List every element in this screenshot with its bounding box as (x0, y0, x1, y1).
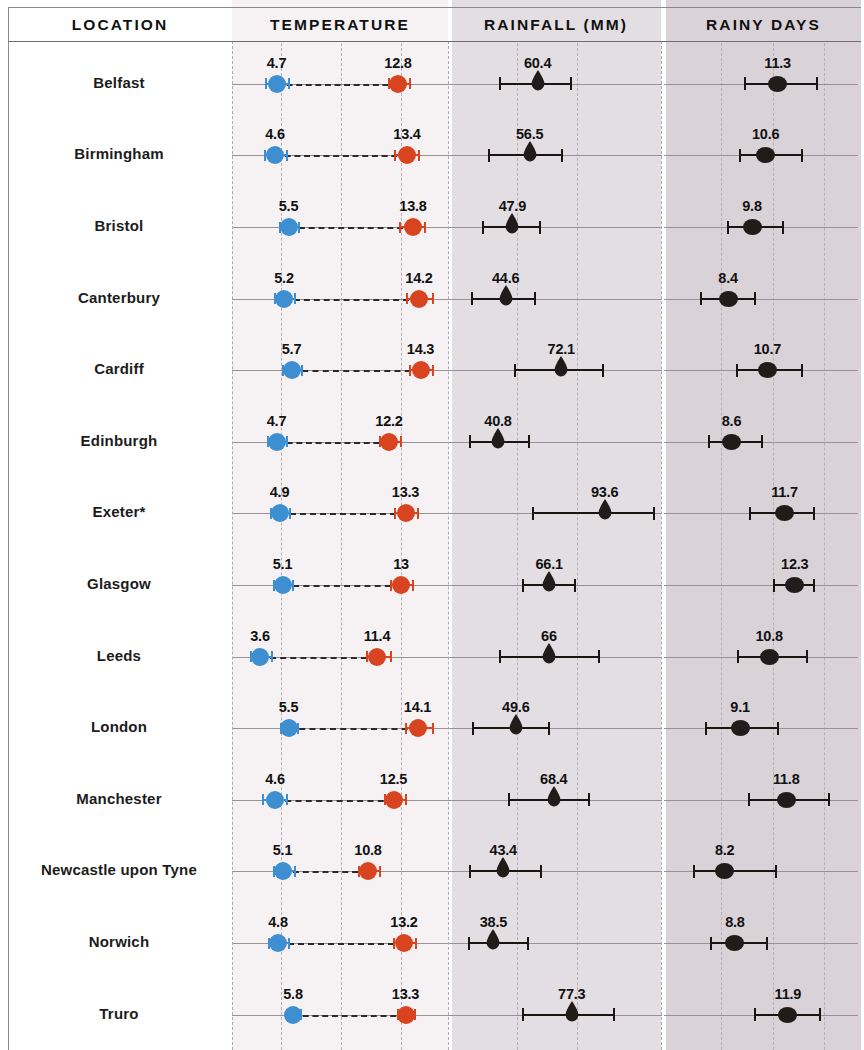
min-temp-marker[interactable] (251, 648, 269, 666)
rainfall-marker[interactable] (553, 356, 569, 377)
rainy-days-cap-low (700, 292, 702, 305)
column-header-temperature[interactable]: TEMPERATURE (234, 8, 446, 41)
rainy-days-cap-low (727, 221, 729, 234)
rainfall-value-label: 60.4 (524, 55, 551, 71)
rainfall-value-label: 43.4 (490, 842, 517, 858)
max-temp-cap-high (418, 150, 420, 161)
row-location-label: Cardiff (8, 360, 230, 377)
rainy-days-cap-high (813, 579, 815, 592)
max-temp-marker[interactable] (380, 433, 398, 451)
rainy-days-marker[interactable] (743, 219, 762, 235)
rainy-days-value-label: 11.3 (764, 55, 791, 71)
max-temp-marker[interactable] (395, 934, 413, 952)
rainy-days-value-label: 8.2 (715, 842, 735, 858)
max-temp-marker[interactable] (397, 504, 415, 522)
max-temp-marker[interactable] (404, 218, 422, 236)
max-temp-cap-high (400, 436, 402, 447)
max-temp-marker[interactable] (368, 648, 386, 666)
rainfall-marker[interactable] (522, 141, 538, 162)
rainfall-marker[interactable] (508, 714, 524, 735)
rainfall-cap-low (482, 221, 484, 234)
column-header-rainfall[interactable]: RAINFALL (MM) (452, 8, 660, 41)
min-temp-marker[interactable] (275, 290, 293, 308)
rainfall-marker[interactable] (541, 571, 557, 592)
rainfall-cap-high (602, 364, 604, 377)
rainy-days-cap-low (739, 149, 741, 162)
rainfall-whisker (533, 512, 654, 514)
min-temp-marker[interactable] (280, 719, 298, 737)
max-temp-cap-low (405, 723, 407, 734)
min-temp-value-label: 4.7 (267, 55, 287, 71)
max-temp-value-label: 14.2 (405, 270, 432, 286)
max-temp-cap-low (394, 150, 396, 161)
rainfall-marker[interactable] (485, 929, 501, 950)
rainfall-marker[interactable] (498, 285, 514, 306)
rainfall-marker[interactable] (564, 1001, 580, 1022)
max-temp-marker[interactable] (397, 1006, 415, 1024)
row-location-label: Bristol (8, 217, 230, 234)
max-temp-marker[interactable] (410, 290, 428, 308)
rainy-days-value-label: 12.3 (781, 556, 808, 572)
max-temp-marker[interactable] (385, 791, 403, 809)
min-temp-marker[interactable] (280, 218, 298, 236)
max-temp-marker[interactable] (392, 576, 410, 594)
rainfall-value-label: 38.5 (480, 914, 507, 930)
rainy-days-marker[interactable] (768, 76, 787, 92)
min-temp-cap-high (286, 794, 288, 805)
min-temp-marker[interactable] (283, 361, 301, 379)
rainfall-cap-high (574, 579, 576, 592)
rainy-days-value-label: 8.8 (725, 914, 745, 930)
gridline-rainy_days (721, 43, 722, 1050)
min-temp-marker[interactable] (268, 433, 286, 451)
rainfall-marker[interactable] (597, 499, 613, 520)
rainfall-value-label: 40.8 (484, 413, 511, 429)
min-temp-marker[interactable] (284, 1006, 302, 1024)
min-temp-cap-high (286, 436, 288, 447)
header-bottom-rule (8, 41, 864, 42)
column-header-rainy-days-label: RAINY DAYS (706, 16, 821, 34)
climate-table-chart: Belfast4.712.860.411.3Birmingham4.613.45… (0, 0, 864, 1050)
rainy-days-marker[interactable] (731, 720, 750, 736)
max-temp-marker[interactable] (409, 719, 427, 737)
rainy-days-marker[interactable] (778, 1007, 797, 1023)
rainy-days-cap-high (782, 221, 784, 234)
min-temp-marker[interactable] (269, 934, 287, 952)
column-header-location[interactable]: LOCATION (9, 8, 231, 41)
rainy-days-marker[interactable] (719, 291, 738, 307)
rainfall-cap-high (613, 1008, 615, 1021)
min-temp-marker[interactable] (274, 862, 292, 880)
rainfall-marker[interactable] (495, 857, 511, 878)
min-temp-marker[interactable] (271, 504, 289, 522)
temperature-range-connector (260, 657, 377, 659)
rainfall-marker[interactable] (530, 70, 546, 91)
max-temp-marker[interactable] (389, 75, 407, 93)
max-temp-value-label: 12.2 (375, 413, 402, 429)
min-temp-marker[interactable] (266, 791, 284, 809)
max-temp-value-label: 13.3 (392, 484, 419, 500)
rainy-days-value-label: 10.8 (755, 628, 782, 644)
rainfall-cap-low (514, 364, 516, 377)
rainy-days-marker[interactable] (760, 649, 779, 665)
min-temp-marker[interactable] (274, 576, 292, 594)
panel-separator-1 (232, 41, 233, 1050)
rainfall-marker[interactable] (490, 428, 506, 449)
max-temp-marker[interactable] (412, 361, 430, 379)
max-temp-cap-low (406, 293, 408, 304)
rainy-days-marker[interactable] (758, 362, 777, 378)
rainy-days-cap-low (754, 1008, 756, 1021)
column-header-rainfall-label: RAINFALL (MM) (484, 16, 628, 34)
gridline-rainfall (517, 43, 518, 1050)
max-temp-value-label: 13.2 (390, 914, 417, 930)
rainfall-value-label: 77.3 (558, 986, 585, 1002)
rainfall-marker[interactable] (504, 213, 520, 234)
min-temp-value-label: 4.8 (268, 914, 288, 930)
gridline-temperature (341, 43, 342, 1050)
rainy-days-marker[interactable] (777, 792, 796, 808)
column-header-rainy-days[interactable]: RAINY DAYS (666, 8, 861, 41)
rainfall-marker[interactable] (541, 643, 557, 664)
rainfall-marker[interactable] (546, 786, 562, 807)
min-temp-marker[interactable] (268, 75, 286, 93)
rainy-days-marker[interactable] (722, 434, 741, 450)
row-location-label: Canterbury (8, 289, 230, 306)
column-header-location-label: LOCATION (72, 16, 169, 34)
